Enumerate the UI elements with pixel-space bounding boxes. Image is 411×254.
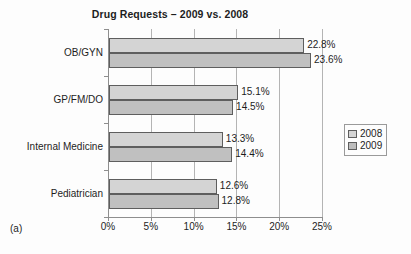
bar-value-label: 12.8% — [222, 196, 250, 206]
bar-value-label: 23.6% — [314, 55, 342, 65]
category-label: Internal Medicine — [3, 142, 103, 152]
x-axis-tick-label: 20% — [269, 222, 289, 232]
legend-swatch-icon-2009 — [348, 142, 357, 150]
chart-figure: Drug Requests – 2009 vs. 2008 OB/GYNGP/F… — [0, 0, 411, 254]
x-axis-tick-labels: 0%5%10%15%20%25% — [108, 0, 338, 254]
category-label: GP/FM/DO — [3, 95, 103, 105]
x-axis-tick-label: 0% — [101, 222, 115, 232]
x-axis-tick-label: 10% — [184, 222, 204, 232]
legend-label-2009: 2009 — [360, 141, 382, 151]
bar-value-label: 12.6% — [220, 181, 248, 191]
legend-swatch-icon-2008 — [348, 130, 357, 138]
panel-caption: (a) — [10, 224, 22, 234]
bar-value-label: 22.8% — [307, 40, 335, 50]
legend-item-2009[interactable]: 2009 — [348, 140, 382, 152]
x-axis-tick-label: 25% — [312, 222, 332, 232]
bar-value-label: 15.1% — [241, 87, 269, 97]
category-labels: OB/GYNGP/FM/DOInternal MedicinePediatric… — [0, 29, 103, 217]
chart-legend: 2008 2009 — [344, 124, 387, 156]
legend-item-2008[interactable]: 2008 — [348, 128, 382, 140]
bar-value-label: 13.3% — [226, 134, 254, 144]
category-label: OB/GYN — [3, 48, 103, 58]
x-axis-tick-label: 5% — [144, 222, 158, 232]
legend-label-2008: 2008 — [360, 129, 382, 139]
bar-value-label: 14.4% — [235, 149, 263, 159]
category-label: Pediatrician — [3, 189, 103, 199]
x-axis-tick-label: 15% — [226, 222, 246, 232]
bar-value-label: 14.5% — [236, 102, 264, 112]
